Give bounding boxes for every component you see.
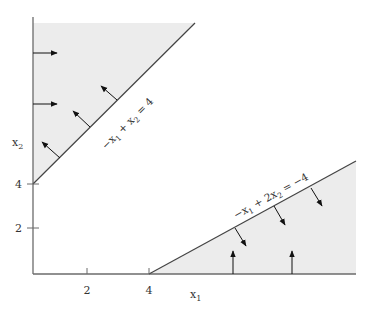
x-axis-label: x1 [190, 288, 201, 303]
feasible-region-diagram: 2 4 2 4 x1 x2 −x1 + x2 = 4 −x1 + 2x2 = −… [0, 0, 366, 309]
x-tick-label-2: 2 [84, 284, 91, 297]
y-tick-label-4: 4 [15, 178, 22, 191]
y-tick-label-2: 2 [15, 222, 22, 235]
x-tick-label-4: 4 [146, 284, 153, 297]
x-axis-ticks [87, 268, 149, 274]
y-axis-label: x2 [12, 136, 23, 151]
